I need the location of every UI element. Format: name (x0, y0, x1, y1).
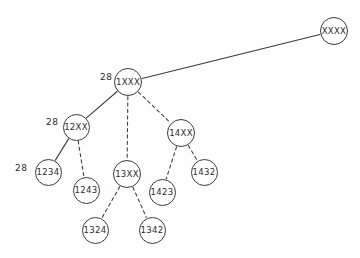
tree-node-label: 1423 (151, 188, 174, 197)
tree-node-label: XXXX (322, 27, 347, 36)
tree-node-1324[interactable]: 1324 (82, 217, 109, 244)
tree-edge-12xx-1234 (55, 139, 68, 160)
tree-node-1243[interactable]: 1243 (73, 177, 100, 204)
tree-edge-14xx-1423 (166, 147, 176, 179)
tree-node-label: 13XX (115, 170, 139, 179)
tree-edge-12xx-1243 (78, 141, 84, 176)
tree-edge-1xxx-12xx (87, 91, 117, 117)
tree-node-label: 1324 (84, 226, 107, 235)
tree-node-1423[interactable]: 1423 (149, 179, 176, 206)
tree-node-label: 12XX (64, 123, 88, 132)
tree-node-1342[interactable]: 1342 (139, 217, 166, 244)
tree-node-label: 1243 (75, 186, 98, 195)
tree-node-12xx[interactable]: 12XX (63, 114, 90, 141)
tree-edge-13xx-1342 (133, 187, 146, 217)
tree-node-1xxx[interactable]: 1XXX (114, 68, 142, 96)
tree-node-13xx[interactable]: 13XX (113, 160, 141, 188)
tree-node-label: 1234 (37, 168, 60, 177)
tree-edge-xxxx-1xxx (142, 34, 320, 78)
tree-node-label: 14XX (169, 129, 193, 138)
tree-node-1432[interactable]: 1432 (191, 159, 218, 186)
tree-edge-1xxx-14xx (138, 92, 170, 123)
tree-diagram-canvas: XXXX1XXX12XX13XX14XX12341243132413421423… (0, 0, 360, 258)
tree-cost-label-1: 28 (46, 117, 58, 127)
tree-node-label: 1XXX (116, 78, 140, 87)
tree-node-1234[interactable]: 1234 (35, 159, 62, 186)
tree-edge-13xx-1324 (102, 187, 120, 218)
tree-edge-14xx-1432 (188, 145, 197, 159)
tree-node-label: 1432 (193, 168, 216, 177)
tree-node-14xx[interactable]: 14XX (167, 119, 195, 147)
tree-node-label: 1342 (141, 226, 164, 235)
tree-node-xxxx[interactable]: XXXX (320, 17, 348, 45)
tree-edge-1xxx-13xx (127, 96, 128, 159)
tree-cost-label-2: 28 (15, 163, 27, 173)
tree-cost-label-0: 28 (100, 72, 112, 82)
